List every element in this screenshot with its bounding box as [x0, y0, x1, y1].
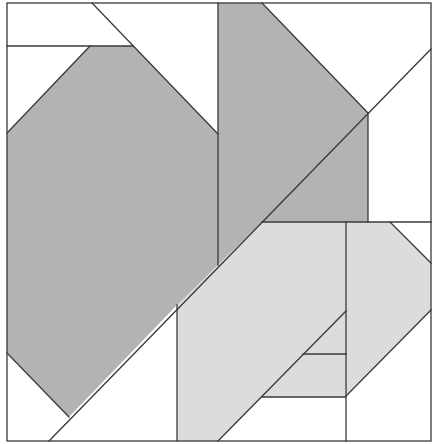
top-left-strip-region — [7, 3, 133, 46]
diagram-canvas — [0, 0, 432, 444]
tiling-figure — [0, 0, 432, 444]
